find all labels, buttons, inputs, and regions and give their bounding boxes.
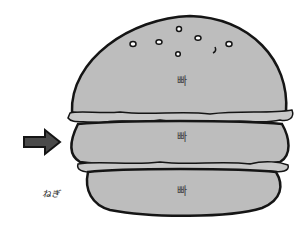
top-bun-label: 빠: [177, 72, 187, 88]
bottom-bun-label: 빠: [177, 182, 187, 198]
right-arrow-icon: [24, 130, 60, 154]
middle-bun-label: 빠: [177, 128, 187, 144]
artist-signature: ねぎ: [42, 187, 60, 200]
